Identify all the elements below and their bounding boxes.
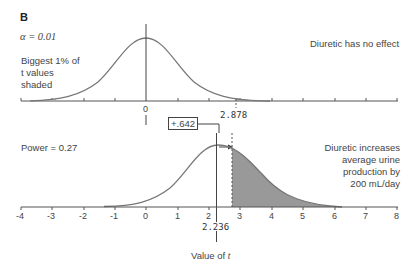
svg-text:8: 8 (394, 211, 399, 221)
svg-text:-3: -3 (47, 211, 55, 221)
alternative-distribution-curve (104, 145, 342, 207)
alt-center-label: 2.236 (202, 222, 229, 232)
svg-text:3: 3 (237, 211, 242, 221)
svg-text:-2: -2 (79, 211, 87, 221)
top-axis (21, 98, 398, 101)
svg-text:5: 5 (300, 211, 305, 221)
bottom-axis: -4 -3 -2 -1 0 1 2 3 4 5 6 7 8 (16, 207, 399, 221)
svg-text:-4: -4 (16, 211, 24, 221)
svg-text:6: 6 (332, 211, 337, 221)
chart-canvas: 0 2.878 -4 -3 -2 -1 0 1 2 3 (0, 0, 418, 269)
svg-text:-1: -1 (110, 211, 118, 221)
svg-text:1: 1 (175, 211, 180, 221)
shift-connector (197, 124, 219, 133)
null-distribution-curve (30, 38, 270, 101)
top-tick-zero: 0 (143, 104, 148, 114)
x-tick-labels: -4 -3 -2 -1 0 1 2 3 4 5 6 7 8 (16, 211, 399, 221)
svg-text:2: 2 (206, 211, 211, 221)
svg-text:0: 0 (143, 211, 148, 221)
svg-text:4: 4 (269, 211, 274, 221)
power-shaded-region (232, 149, 340, 207)
x-axis-label: Value of t (191, 250, 230, 263)
critical-value-label: 2.878 (220, 110, 247, 120)
svg-text:7: 7 (363, 211, 368, 221)
